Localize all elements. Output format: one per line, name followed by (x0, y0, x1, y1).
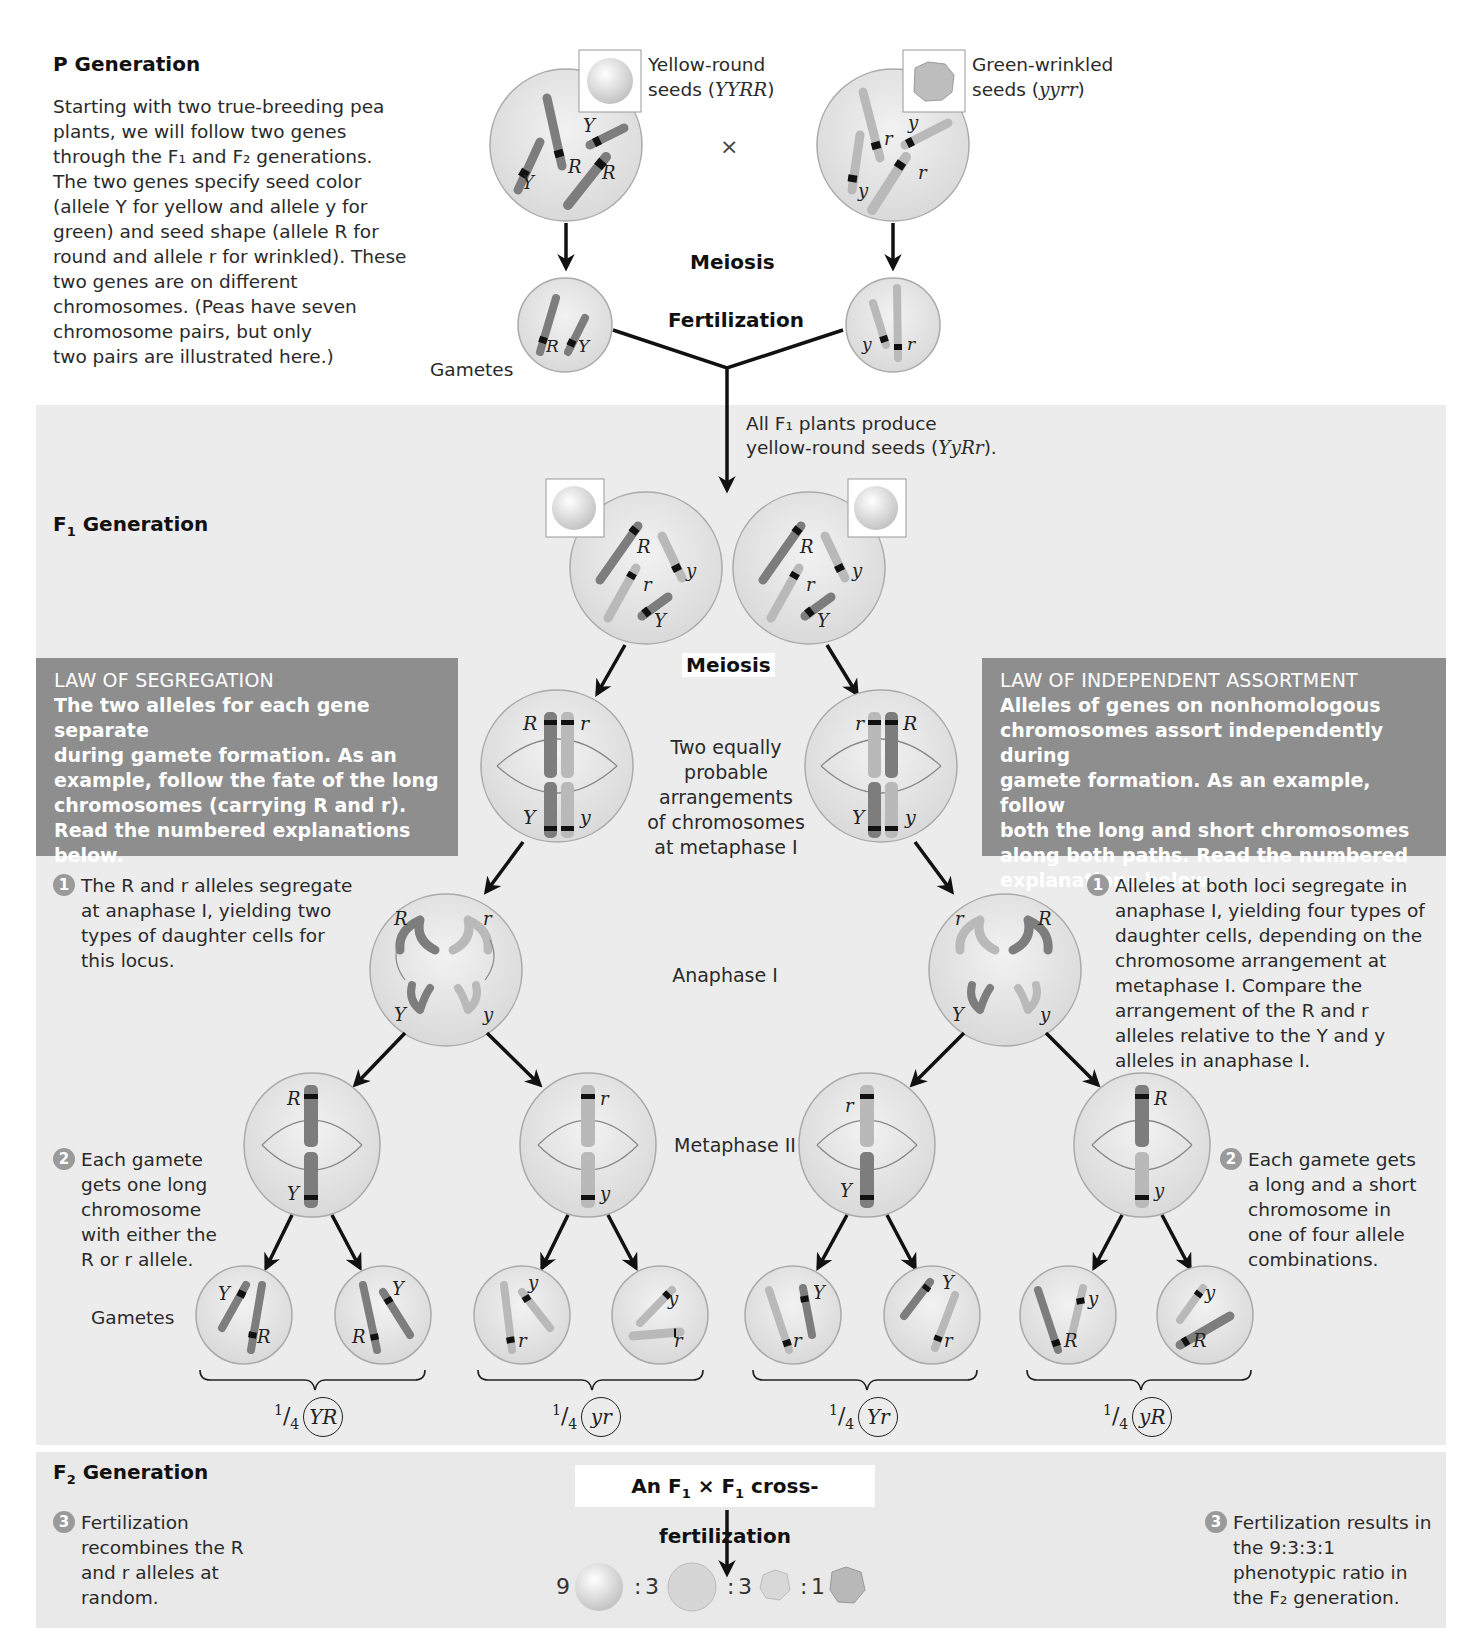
f2-seed-yellow-round-icon (575, 1563, 623, 1611)
allele-label: r (884, 128, 893, 149)
step-line: alleles relative to the Y and y (1115, 1023, 1425, 1048)
fraction-denominator: 4 (1119, 1416, 1128, 1432)
label-text: An F (631, 1474, 681, 1498)
law-desc-line: during gamete formation. As an (54, 743, 442, 768)
intro-line: chromosomes. (Peas have seven (53, 294, 413, 319)
allele-label: r (600, 1088, 609, 1109)
metaphase2-cell-Ry (1074, 1073, 1210, 1217)
allele-label: r (944, 1330, 953, 1351)
f1-note-line2: yellow-round seeds (YyRr). (746, 436, 997, 460)
heading-subscript: 2 (67, 1472, 76, 1487)
step-line: gets one long (81, 1172, 217, 1197)
meiosis-label-p: Meiosis (690, 250, 775, 274)
f1-seed-right-icon (854, 486, 898, 530)
label-text: ). (984, 437, 997, 458)
allele-label: r (793, 1330, 802, 1351)
arrow-gamete-8 (1162, 1215, 1190, 1268)
intro-line: chromosome pairs, but only (53, 319, 413, 344)
allele-label: Y (840, 1180, 852, 1201)
fraction-numerator: 1 (274, 1402, 283, 1418)
ratio-count-green-round: 3 (645, 1574, 659, 1599)
step-line: metaphase I. Compare the (1115, 973, 1425, 998)
step-line: phenotypic ratio in (1233, 1560, 1431, 1585)
fraction-denominator: 4 (568, 1416, 577, 1432)
step-line: Alleles at both loci segregate in (1115, 873, 1425, 898)
law-desc-line: The two alleles for each gene separate (54, 693, 442, 743)
metaphase-II-label: Metaphase II (660, 1133, 810, 1158)
genotype-yyrr: yyrr (1039, 79, 1078, 100)
seed-yellow-round-icon (587, 58, 633, 104)
note-line: Two equally (636, 735, 816, 760)
ratio-count-green-wrinkled: 1 (811, 1574, 825, 1599)
genotype-circle: yr (581, 1397, 621, 1437)
fraction-numerator: 1 (552, 1402, 561, 1418)
f1-cross-label: An F1 × F1 cross-fertilization (575, 1465, 875, 1507)
label-subscript: 1 (682, 1486, 691, 1501)
allele-label: Y (817, 610, 829, 631)
step-line: recombines the R (81, 1535, 244, 1560)
step-1-left: 1 The R and r alleles segregate at anaph… (53, 873, 352, 973)
ratio-count-yellow-round: 9 (556, 1574, 570, 1599)
genotype-YyRr: YyRr (938, 437, 983, 458)
gamete-fraction-Yr: 1/4Yr (829, 1397, 898, 1437)
gamete-cell-yr (846, 278, 940, 372)
genotype-circle: Yr (858, 1397, 898, 1437)
f1-note: All F₁ plants produce yellow-round seeds… (746, 412, 997, 460)
intro-line: The two genes specify seed color (53, 169, 413, 194)
allele-label: y (580, 806, 591, 828)
allele-label: R (800, 536, 814, 557)
note-line: of chromosomes (636, 810, 816, 835)
allele-label: y (1040, 1004, 1050, 1025)
step-number-badge: 1 (53, 874, 75, 896)
allele-label: y (600, 1183, 610, 1204)
metaphase2-cell-ry (520, 1073, 656, 1217)
fraction-denominator: 4 (845, 1416, 854, 1432)
allele-label: Y (287, 1183, 299, 1204)
label-text: ) (767, 79, 774, 100)
heading-text: F (53, 512, 67, 536)
allele-label: y (852, 560, 862, 581)
step-number-badge: 1 (1087, 874, 1109, 896)
law-title: LAW OF SEGREGATION (54, 668, 442, 693)
step-2-left: 2 Each gamete gets one long chromosome w… (53, 1147, 217, 1272)
parent-right-label: Green-wrinkled seeds (yyrr) (972, 52, 1113, 102)
allele-label: Y (952, 1004, 964, 1025)
note-line: at metaphase I (636, 835, 816, 860)
anaphase1-cell-left (370, 894, 522, 1046)
law-desc-line: along both paths. Read the numbered (1000, 843, 1430, 868)
intro-line: Starting with two true-breeding pea (53, 94, 413, 119)
law-desc-line: Read the numbered explanations (54, 818, 442, 843)
step-line: types of daughter cells for (81, 923, 352, 948)
allele-label: y (862, 334, 872, 354)
arrow-gamete-1 (266, 1215, 292, 1268)
allele-label: r (518, 1330, 527, 1351)
allele-label: R (546, 336, 559, 356)
f2-seed-yellow-wrinkled-icon (760, 1570, 790, 1600)
allele-label: y (483, 1004, 493, 1025)
parent-right-label-line2: seeds (yyrr) (972, 77, 1113, 102)
allele-label: r (806, 574, 815, 595)
allele-label: y (1154, 1180, 1164, 1201)
heading-text: Generation (76, 1460, 209, 1484)
label-text: yellow-round seeds ( (746, 437, 938, 458)
arrow-meta1-to-ana1-left (486, 842, 523, 892)
metaphase1-cell-left (481, 690, 633, 842)
label-text: ) (1077, 79, 1084, 100)
intro-line: through the F₁ and F₂ generations. (53, 144, 413, 169)
step-line: chromosome in (1248, 1197, 1416, 1222)
allele-label: Y (583, 115, 595, 136)
allele-label: R (352, 1326, 366, 1347)
allele-label: R (394, 908, 408, 929)
step-line: The R and r alleles segregate (81, 873, 352, 898)
fraction-numerator: 1 (829, 1402, 838, 1418)
seed-green-wrinkled-icon (914, 62, 954, 101)
allele-label: Y (523, 806, 536, 828)
intro-line: green) and seed shape (allele R for (53, 219, 413, 244)
allele-label: r (918, 162, 927, 183)
gamete-fraction-yr: 1/4yr (552, 1397, 621, 1437)
step-line: alleles in anaphase I. (1115, 1048, 1425, 1073)
allele-label: R (523, 712, 537, 734)
step-line: Each gamete gets (1248, 1147, 1416, 1172)
law-desc-line: chromosomes (carrying R and r). (54, 793, 442, 818)
arrow-gamete-7 (1094, 1215, 1122, 1268)
